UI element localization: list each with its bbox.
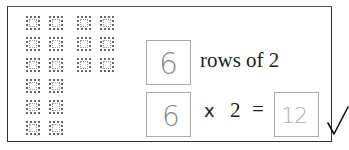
left-group-square [26,16,40,30]
left-group-square [49,79,63,93]
factor-answer-value: 6 [162,100,180,133]
left-group-square [26,100,40,114]
right-group-square [100,37,114,51]
rows-answer-box[interactable]: 6 [146,40,191,85]
rows-answer-value: 6 [159,46,178,81]
right-group-square [100,58,114,72]
rows-of-text: rows of 2 [200,48,279,73]
left-group-square [49,16,63,30]
product-answer-box[interactable]: 12 [274,92,319,137]
left-group-square [49,121,63,135]
left-group-square [26,37,40,51]
factor-answer-box[interactable]: 6 [146,92,191,137]
right-group-square [77,37,91,51]
product-answer-value: 12 [281,103,307,128]
left-group-square [26,58,40,72]
right-group-square [100,16,114,30]
left-group-square [49,100,63,114]
left-group-square [49,58,63,72]
multiply-sign: x [204,100,215,121]
equals-sign: = [252,97,264,122]
left-group-square [26,121,40,135]
left-group-square [49,37,63,51]
right-group-square [77,16,91,30]
factor-value: 2 [230,98,241,123]
left-group-square [26,79,40,93]
right-group-square [77,58,91,72]
checkmark-icon [327,105,349,135]
